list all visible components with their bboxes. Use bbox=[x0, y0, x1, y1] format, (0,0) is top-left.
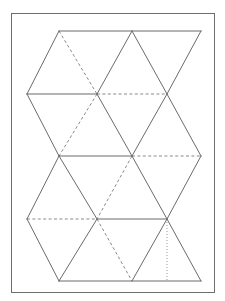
icosahedron-net-svg bbox=[0, 0, 225, 301]
figure-root bbox=[0, 0, 225, 301]
